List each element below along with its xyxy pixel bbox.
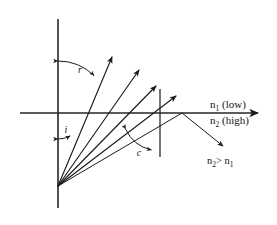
refracted-ray-3	[58, 86, 156, 186]
refracted-ray-2	[58, 70, 139, 186]
refracted-ray-4	[58, 96, 176, 186]
medium-label-upper: n1 (low)	[210, 98, 246, 113]
angle-label-incidence: i	[65, 124, 68, 135]
total-internal-reflection-reflected-ray	[182, 113, 223, 146]
angle-arc-incidence	[58, 136, 70, 139]
medium-lower-description: (high)	[222, 114, 249, 127]
index-relation-label: n2> n1	[207, 155, 234, 169]
medium-upper-description: (low)	[222, 98, 246, 111]
refracted-ray-1	[58, 57, 112, 186]
medium-label-lower: n2 (high)	[210, 114, 249, 129]
total-internal-reflection-incident-ray	[58, 113, 182, 186]
angle-label-critical: c	[137, 147, 142, 158]
relation-right-subscript: 1	[230, 160, 234, 169]
refraction-diagram-canvas: r i c n1 (low) n2 (high) n2> n1	[0, 0, 277, 225]
angle-arc-refraction	[58, 61, 94, 76]
optics-diagram-figure: r i c n1 (low) n2 (high) n2> n1	[0, 0, 277, 225]
angle-label-refraction: r	[78, 64, 82, 75]
